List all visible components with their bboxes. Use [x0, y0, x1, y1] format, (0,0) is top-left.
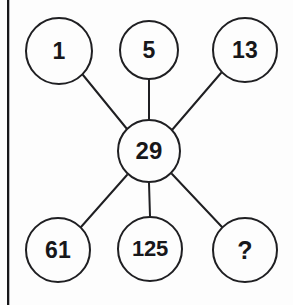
connector-line-nq-to-center — [172, 174, 222, 227]
node-bottom-right-unknown[interactable]: ? — [212, 217, 278, 283]
node-label-center: 29 — [135, 139, 162, 163]
node-label-bottom-right-unknown: ? — [237, 238, 252, 263]
connector-line-n13-to-center — [172, 73, 221, 130]
node-bottom-center[interactable]: 125 — [117, 216, 183, 282]
puzzle-diagram-canvas: 1 5 13 29 61 125 ? — [0, 0, 293, 305]
connector-line-n1-to-center — [83, 75, 127, 129]
node-top-left[interactable]: 1 — [25, 17, 93, 85]
node-label-top-left: 1 — [53, 40, 66, 63]
node-top-right[interactable]: 13 — [212, 17, 278, 83]
page-border-line-shadow — [9, 0, 10, 305]
node-bottom-left[interactable]: 61 — [25, 217, 91, 283]
node-label-top-right: 13 — [232, 39, 258, 62]
node-top-center[interactable]: 5 — [119, 20, 179, 80]
node-label-bottom-left: 61 — [45, 239, 71, 262]
node-label-top-center: 5 — [143, 39, 156, 62]
connector-line-n61-to-center — [81, 175, 127, 227]
connector-line-n125-to-center — [149, 183, 150, 216]
node-label-bottom-center: 125 — [132, 238, 168, 260]
node-center-hub[interactable]: 29 — [117, 119, 181, 183]
